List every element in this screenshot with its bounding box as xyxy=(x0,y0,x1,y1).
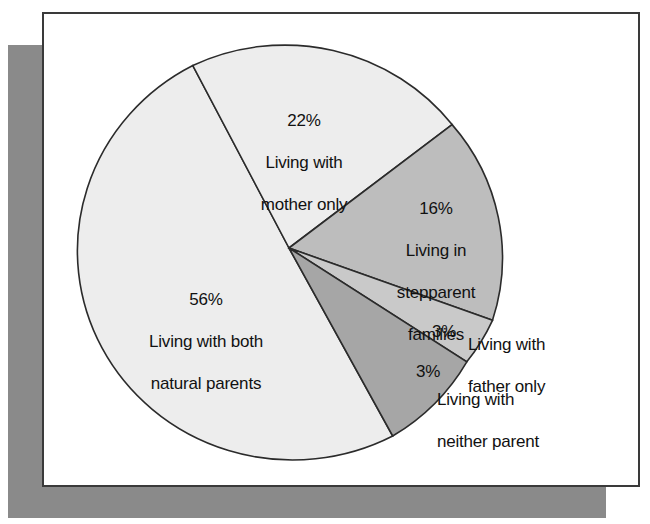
slice-desc-56-line2: natural parents xyxy=(106,373,306,394)
slice-label-living-with-mother-only: 22% Living with mother only xyxy=(219,89,389,236)
figure-stage: 56% Living with both natural parents 22%… xyxy=(0,0,650,524)
slice-desc-56-line1: Living with both xyxy=(106,331,306,352)
slice-percent-22: 22% xyxy=(219,110,389,131)
slice-percent-56: 56% xyxy=(106,289,306,310)
slice-desc-16-line1: Living in xyxy=(371,240,501,261)
slice-label-living-with-both-natural-parents: 56% Living with both natural parents xyxy=(106,268,306,415)
card-drop-shadow-bottom xyxy=(8,487,606,518)
slice-percent-16: 16% xyxy=(371,198,501,219)
slice-desc-3-father-line1: Living with xyxy=(468,334,618,355)
slice-percent-3-father: 3% xyxy=(420,321,468,342)
slice-callout-living-with-neither-parent: Living with neither parent xyxy=(437,368,622,473)
slice-desc-22-line1: Living with xyxy=(219,152,389,173)
slice-desc-3-neither-line2: neither parent xyxy=(437,431,622,452)
slice-desc-3-neither-line1: Living with xyxy=(437,389,622,410)
slice-desc-22-line2: mother only xyxy=(219,194,389,215)
